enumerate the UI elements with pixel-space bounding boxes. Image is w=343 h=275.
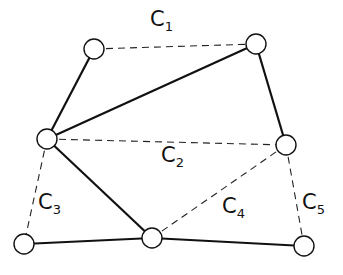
label-c1: C1: [150, 9, 173, 33]
edge-c1: [94, 44, 256, 49]
label-c5: C5: [302, 192, 325, 216]
label-subscript: 2: [176, 155, 184, 170]
edge-n1-n3: [47, 49, 94, 139]
node-n6: [142, 228, 162, 248]
label-letter: C: [222, 194, 237, 218]
node-n3: [37, 129, 57, 149]
edge-n3-n6: [47, 139, 152, 238]
label-letter: C: [150, 7, 165, 31]
node-n2: [246, 34, 266, 54]
label-subscript: 1: [165, 19, 173, 34]
label-letter: C: [38, 190, 53, 214]
label-subscript: 4: [237, 206, 245, 221]
label-letter: C: [161, 143, 176, 167]
node-n7: [294, 236, 314, 256]
label-c3: C3: [38, 192, 61, 216]
node-n5: [14, 234, 34, 254]
node-n4: [276, 135, 296, 155]
edge-n2-n4: [256, 44, 286, 145]
label-c4: C4: [222, 196, 245, 220]
label-subscript: 3: [53, 202, 61, 217]
edge-n6-n7: [152, 238, 304, 246]
label-c2: C2: [161, 145, 184, 169]
node-n1: [84, 39, 104, 59]
label-letter: C: [302, 190, 317, 214]
edge-n3-n2: [47, 44, 256, 139]
label-subscript: 5: [317, 202, 325, 217]
graph-diagram: [0, 0, 343, 275]
edge-n5-n6: [24, 238, 152, 244]
